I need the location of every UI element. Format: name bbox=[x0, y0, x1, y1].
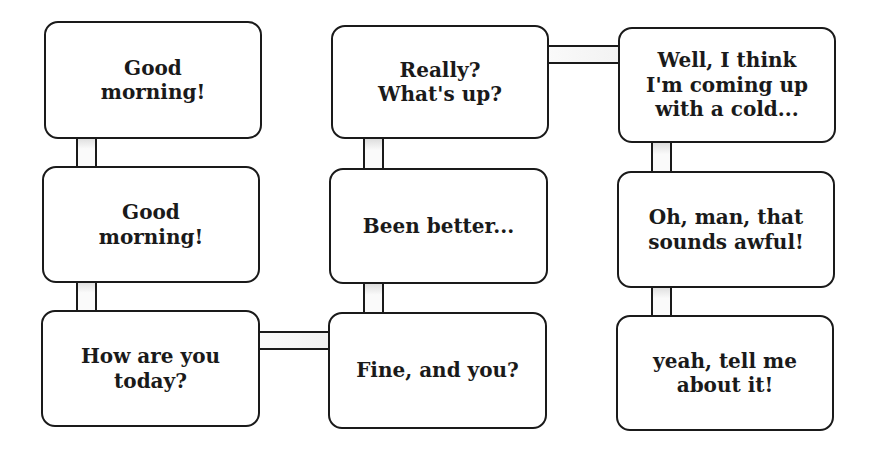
connector-c1-c2-bottom bbox=[257, 331, 333, 350]
connector-c1-2-3 bbox=[76, 280, 97, 312]
speech-text: Well, I think I'm coming up with a cold.… bbox=[646, 48, 808, 121]
speech-text: How are you today? bbox=[81, 344, 220, 393]
connector-c3-2-3 bbox=[651, 285, 672, 318]
speech-text: Really? What's up? bbox=[378, 58, 502, 107]
speech-text: Good morning! bbox=[101, 56, 205, 105]
connector-c2-2-1 bbox=[363, 137, 384, 170]
speech-box-coming-up-with-cold: Well, I think I'm coming up with a cold.… bbox=[618, 27, 836, 143]
speech-box-good-morning-1: Good morning! bbox=[44, 21, 262, 139]
speech-text: Good morning! bbox=[99, 200, 203, 249]
connector-c2-3-2 bbox=[363, 282, 384, 314]
connector-c3-1-2 bbox=[651, 141, 672, 174]
speech-box-been-better: Been better... bbox=[329, 168, 548, 284]
connector-c1-1-2 bbox=[76, 136, 97, 168]
speech-text: Oh, man, that sounds awful! bbox=[648, 205, 804, 254]
speech-box-fine-and-you: Fine, and you? bbox=[328, 312, 547, 429]
speech-box-how-are-you: How are you today? bbox=[41, 310, 260, 427]
speech-text: yeah, tell me about it! bbox=[653, 349, 797, 398]
speech-box-good-morning-2: Good morning! bbox=[42, 166, 260, 283]
connector-c2-c3-top bbox=[546, 45, 621, 64]
speech-text: Fine, and you? bbox=[356, 358, 519, 382]
speech-box-really-whats-up: Really? What's up? bbox=[331, 25, 549, 139]
speech-box-sounds-awful: Oh, man, that sounds awful! bbox=[617, 171, 835, 288]
speech-box-tell-me-about-it: yeah, tell me about it! bbox=[616, 315, 834, 431]
speech-text: Been better... bbox=[363, 214, 514, 238]
